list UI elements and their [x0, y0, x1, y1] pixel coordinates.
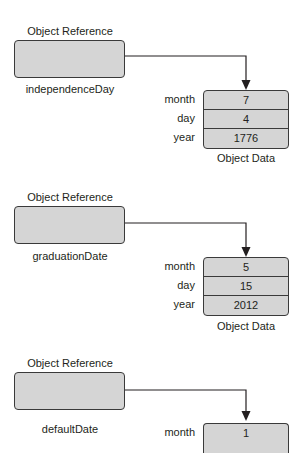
field-label-day: day — [150, 276, 195, 295]
field-value-month: 1 — [204, 424, 288, 443]
arrowhead-icon — [242, 411, 251, 421]
field-labels: month — [150, 423, 195, 442]
field-value-year: 1776 — [204, 129, 288, 148]
reference-group-graduation-date: Object Reference graduationDate month da… — [0, 166, 307, 336]
object-data-caption: Object Data — [203, 152, 289, 165]
object-data-box: 5 15 2012 — [203, 257, 289, 316]
field-value-day: 4 — [204, 110, 288, 129]
field-label-day: day — [150, 109, 195, 128]
field-label-year: year — [150, 295, 195, 314]
reference-group-independence-day: Object Reference independenceDay month d… — [0, 0, 307, 170]
field-value-month: 5 — [204, 258, 288, 277]
arrowhead-icon — [242, 80, 251, 90]
field-value-month: 7 — [204, 91, 288, 110]
field-value-year: 2012 — [204, 296, 288, 315]
field-labels: month day year — [150, 257, 195, 314]
object-data-box: 7 4 1776 — [203, 90, 289, 149]
field-label-year: year — [150, 128, 195, 147]
object-data-box: 1 — [203, 423, 289, 453]
field-label-month: month — [150, 257, 195, 276]
field-label-month: month — [150, 90, 195, 109]
reference-group-default-date: Object Reference defaultDate month 1 — [0, 332, 307, 439]
field-value-day: 15 — [204, 277, 288, 296]
field-labels: month day year — [150, 90, 195, 147]
arrowhead-icon — [242, 247, 251, 257]
field-label-month: month — [150, 423, 195, 442]
